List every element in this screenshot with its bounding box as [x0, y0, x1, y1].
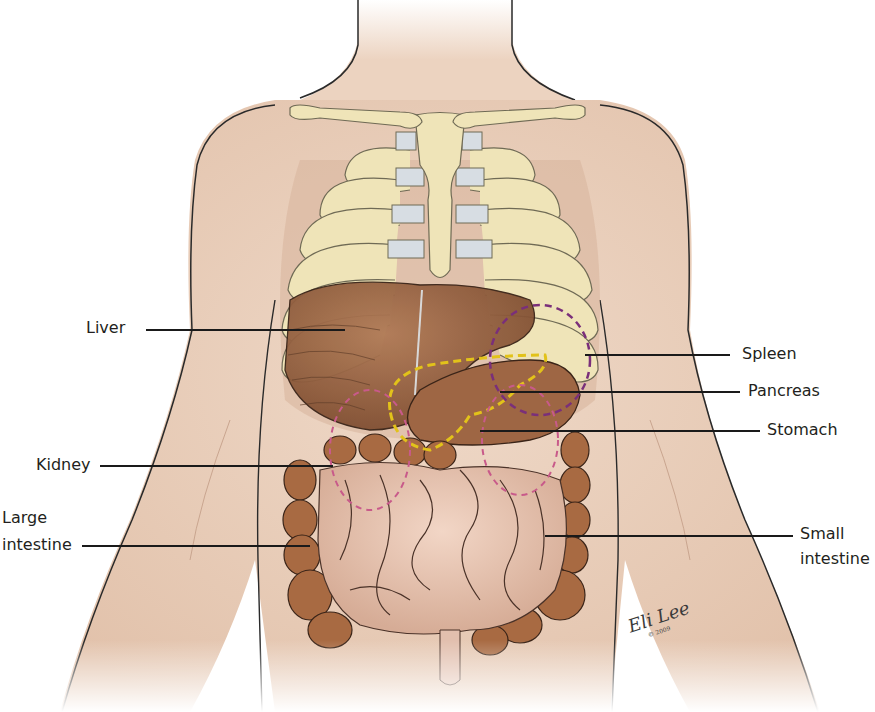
label-large-intestine-line2: intestine: [2, 535, 72, 554]
label-kidney: Kidney: [36, 455, 91, 474]
neck: [300, 0, 575, 100]
label-spleen: Spleen: [742, 344, 797, 363]
small-intestine: [318, 463, 566, 635]
label-small-intestine-line2: intestine: [800, 549, 870, 568]
label-pancreas: Pancreas: [748, 381, 820, 400]
label-stomach: Stomach: [767, 420, 838, 439]
label-small-intestine: Small intestine: [800, 524, 870, 568]
label-large-intestine-line1: Large: [2, 508, 72, 527]
label-large-intestine: Large intestine: [2, 508, 72, 554]
label-liver: Liver: [86, 318, 125, 337]
anatomy-figure: Liver Kidney Large intestine Spleen Panc…: [0, 0, 875, 712]
label-small-intestine-line1: Small: [800, 524, 870, 543]
